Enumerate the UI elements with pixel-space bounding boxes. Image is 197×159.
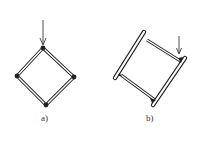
figure-b-frame <box>115 32 185 105</box>
figure-a-label: a) <box>41 113 48 123</box>
joint-top <box>41 46 46 51</box>
joint-bottom <box>44 103 49 108</box>
diagram-canvas <box>0 0 197 159</box>
joint-left <box>15 74 20 79</box>
joint-right <box>72 75 77 80</box>
figure-a-frame <box>15 20 77 107</box>
figure-b-label: b) <box>146 113 154 123</box>
